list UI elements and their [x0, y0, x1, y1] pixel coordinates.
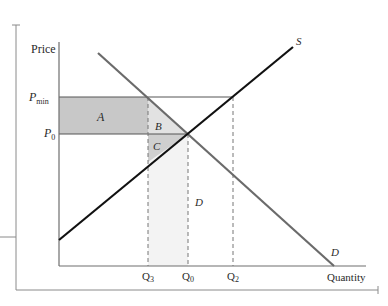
area-a-label: A — [96, 110, 105, 124]
pmin-label: Pmin — [28, 90, 49, 106]
q2-label-sub: 2 — [235, 275, 239, 284]
y-axis-label: Price — [31, 42, 56, 56]
supply-label: S — [296, 35, 302, 47]
q2-label: Q2 — [227, 270, 239, 284]
area-c-label: C — [153, 140, 161, 152]
demand-curve — [98, 53, 334, 266]
q3-label: Q3 — [142, 270, 154, 284]
demand-label: D — [330, 246, 339, 258]
area-b-label: B — [155, 120, 162, 132]
pmin-label-sub: min — [36, 97, 48, 106]
p0-label: P0 — [43, 126, 55, 142]
price-floor-diagram: Price Quantity Pmin P0 Q3 Q0 Q2 S D A B … — [0, 0, 388, 306]
q0-label: Q0 — [182, 270, 194, 284]
q3-label-sub: 3 — [150, 275, 154, 284]
x-axis-label: Quantity — [327, 271, 366, 283]
p0-label-sub: 0 — [51, 133, 55, 142]
q2-label-main: Q — [227, 270, 235, 282]
q0-label-sub: 0 — [190, 275, 194, 284]
area-d-label: D — [194, 196, 203, 208]
q3-label-main: Q — [142, 270, 150, 282]
q0-label-main: Q — [182, 270, 190, 282]
